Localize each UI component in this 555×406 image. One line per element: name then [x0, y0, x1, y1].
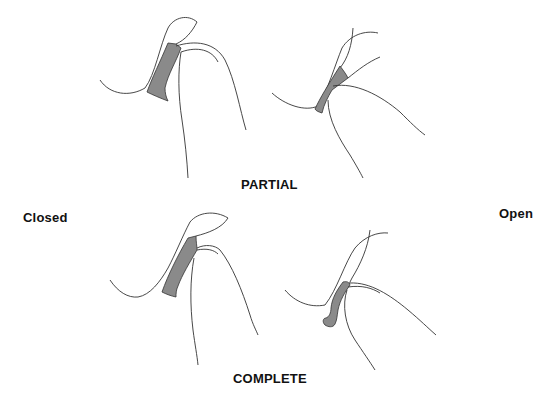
- lower-stem: [328, 100, 363, 178]
- diagram-canvas: [0, 0, 555, 406]
- right-arch-inner: [197, 249, 218, 254]
- shaded-region: [147, 43, 181, 101]
- inner-flap-outline: [345, 230, 370, 291]
- panel-complete-closed: [110, 213, 258, 365]
- row-label-complete: COMPLETE: [233, 371, 307, 386]
- column-label-closed: Closed: [23, 210, 68, 225]
- panel-partial-closed: [100, 17, 246, 178]
- right-arch-inner: [181, 49, 218, 62]
- shaded-region: [315, 66, 348, 113]
- upper-right-arm: [350, 283, 436, 335]
- outer-flap-outline: [100, 17, 197, 93]
- lower-stem: [345, 290, 375, 370]
- upper-right-arm: [348, 57, 380, 78]
- panel-partial-open: [272, 28, 425, 178]
- column-label-open: Open: [499, 206, 533, 221]
- shaded-region: [162, 236, 197, 297]
- panel-complete-open: [285, 230, 436, 370]
- upper-right-arm-inner: [348, 286, 380, 293]
- inner-stem: [179, 52, 188, 178]
- lower-right-arm: [333, 85, 425, 135]
- inner-stem: [191, 258, 198, 365]
- right-arch-outer: [176, 43, 246, 130]
- right-arch-outer: [197, 246, 258, 335]
- row-label-partial: PARTIAL: [241, 177, 298, 192]
